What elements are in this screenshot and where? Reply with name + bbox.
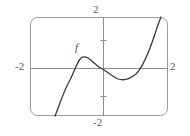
function-graph-figure: 2 -2 -2 2 f — [0, 0, 190, 136]
x-axis-label-right: 2 — [170, 61, 176, 72]
curve-label-f: f — [75, 42, 78, 53]
y-axis-label-bottom: -2 — [93, 117, 102, 128]
x-axis-label-left: -2 — [15, 61, 24, 72]
curve-f — [55, 17, 161, 116]
y-axis-label-top: 2 — [93, 4, 99, 15]
